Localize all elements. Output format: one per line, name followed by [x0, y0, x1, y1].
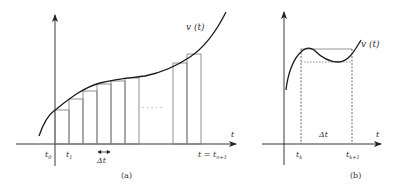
tick-tk1: tk+1: [346, 150, 360, 160]
tick-tn1: t = tn+1: [198, 150, 227, 160]
curve-label-b: v (t): [361, 39, 380, 49]
axis-label-t-a: t: [231, 130, 235, 139]
riemann-rectangles-a: [55, 54, 201, 144]
caption-b: (b): [350, 171, 361, 180]
ellipsis-a: · · · · ·: [142, 104, 162, 112]
curve-v-b: [286, 40, 361, 90]
tick-t0: t0: [45, 150, 52, 160]
delta-t-label-b: Δt: [318, 130, 329, 139]
panel-a: · · · · · v (t) t t0 t1 Δt t = tn+1 (a): [16, 12, 236, 180]
axis-label-t-b: t: [376, 130, 380, 139]
delta-t-label-a: Δt: [96, 156, 107, 165]
curve-label-a: v (t): [186, 22, 205, 32]
caption-a: (a): [121, 171, 132, 180]
riemann-sum-diagram: · · · · · v (t) t t0 t1 Δt t = tn+1 (a) …: [0, 0, 394, 192]
panel-b: v (t) t Δt tk tk+1 (b): [262, 12, 381, 180]
delta-t-arrow-a: [98, 151, 110, 154]
tick-tk: tk: [296, 150, 302, 160]
tick-t1: t1: [66, 150, 72, 160]
